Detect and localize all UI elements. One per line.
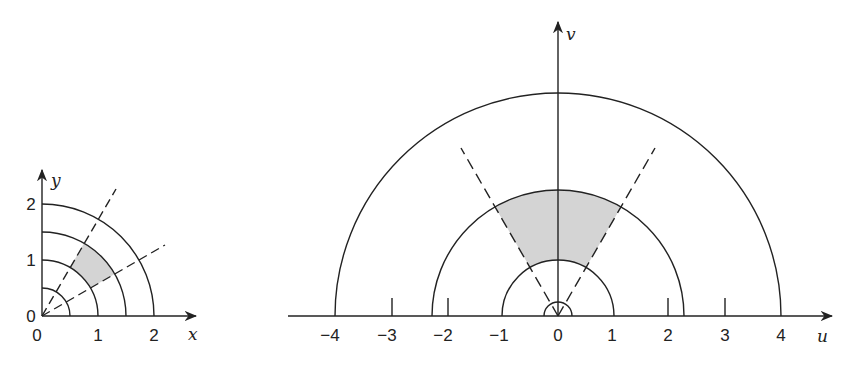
u-tick-label-1: 1 [607, 326, 616, 345]
u-tick-label-0: 0 [553, 326, 562, 345]
u-tick-label-3: 3 [720, 326, 729, 345]
left-x-tick-1: 1 [93, 326, 102, 345]
u-tick-label-minus4: −4 [320, 326, 339, 345]
left-y-axis-label: y [50, 170, 61, 190]
u-tick-label-minus3: −3 [377, 326, 396, 345]
u-tick-label-4: 4 [776, 326, 785, 345]
left-y-tick-0: 0 [26, 307, 35, 326]
u-tick-label-minus2: −2 [433, 326, 452, 345]
left-x-tick-0: 0 [32, 326, 41, 345]
right-v-axis-label: v [566, 24, 576, 44]
left-labels: y x 0 1 2 0 1 2 [26, 170, 198, 345]
left-dashed-ray-30 [42, 245, 165, 316]
left-x-tick-2: 2 [149, 326, 158, 345]
left-shaded-region [70, 243, 115, 288]
left-y-tick-1: 1 [26, 251, 35, 270]
left-y-tick-2: 2 [26, 195, 35, 214]
left-circle-r0.5 [42, 288, 70, 316]
u-tick-label-minus1: −1 [489, 326, 508, 345]
right-labels: v u −4 −3 −2 −1 0 1 2 3 4 [320, 24, 828, 346]
left-figure [42, 170, 196, 316]
diagram-canvas: y x 0 1 2 0 1 2 v u −4 −3 −2 −1 0 1 2 3 … [0, 0, 848, 369]
left-x-axis-label: x [188, 324, 198, 344]
left-dashed-ray-60 [42, 189, 116, 316]
u-tick-label-2: 2 [663, 326, 672, 345]
right-u-axis-label: u [817, 326, 828, 346]
right-figure [288, 22, 832, 316]
